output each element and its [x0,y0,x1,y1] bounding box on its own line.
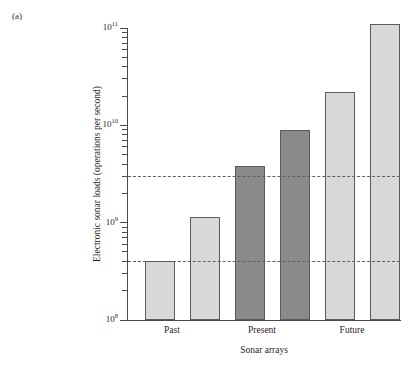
reference-line-upper-threshold [128,176,400,177]
bar-5-future[interactable] [325,92,355,320]
x-group-label-future: Future [340,325,365,335]
reference-line-lower-threshold [128,261,400,262]
figure-panel-a: (a) Electronic sonar loads (operations p… [0,0,412,367]
y-tick-label-1e11: 1011 [0,23,118,32]
bar-2-past[interactable] [190,217,220,320]
bar-3-present[interactable] [235,166,265,320]
y-axis-title: Electronic sonar loads (operations per s… [92,28,102,320]
panel-label: (a) [12,12,22,21]
y-tick-major-1e10 [120,125,128,126]
y-tick-major-1e9 [120,222,128,223]
y-tick-major-1e11 [120,28,128,29]
x-group-label-past: Past [164,325,180,335]
bar-4-present[interactable] [280,130,310,320]
x-group-label-present: Present [248,325,276,335]
bar-6-future[interactable] [370,24,400,320]
bar-1-past[interactable] [145,261,175,320]
y-tick-label-1e8: 108 [0,315,118,324]
x-axis-line [127,320,401,321]
y-tick-label-1e9: 109 [0,218,118,227]
x-axis-title: Sonar arrays [128,345,400,355]
y-tick-label-1e10: 1010 [0,120,118,129]
plot-area [128,28,400,320]
y-tick-major-1e8 [120,320,128,321]
